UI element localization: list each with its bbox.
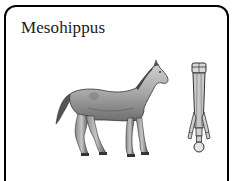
horse-illustration [48,58,170,158]
leg-bone-illustration [183,62,215,156]
species-title: Mesohippus [21,18,105,38]
